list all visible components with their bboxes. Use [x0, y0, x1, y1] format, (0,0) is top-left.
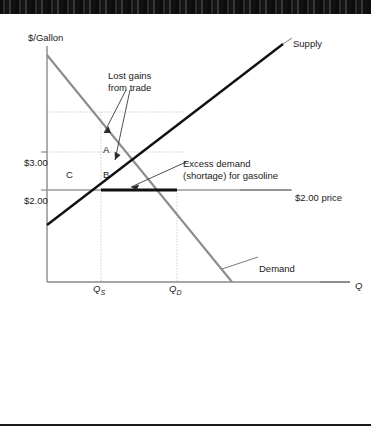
excess-demand-arrow [131, 162, 186, 190]
arrow-to-b-shaft [115, 90, 130, 160]
top-decoration-bar [0, 0, 371, 14]
figure-container: $/Gallon Supply Demand Q Lost gainsfrom … [0, 14, 371, 314]
lost-gains-line-1: Lost gains [108, 70, 151, 81]
guide-lines [47, 112, 185, 282]
qd-subscript: D [176, 289, 181, 296]
x-tick-label-qd: QD [169, 283, 181, 298]
bottom-divider [0, 424, 371, 426]
x-tick-label-qs: QS [93, 283, 105, 298]
x-axis-title: Q [355, 280, 362, 292]
excess-demand-line-2: (shortage) for gasoline [183, 170, 278, 181]
y-tick-label-200: $2.00 [24, 195, 48, 207]
lost-gains-line-2: from trade [108, 82, 151, 93]
excess-demand-annotation: Excess demand(shortage) for gasoline [183, 158, 283, 181]
price-callout-label: $2.00 price [295, 192, 342, 204]
demand-curve-label: Demand [259, 263, 295, 275]
area-label-b: B [103, 169, 109, 181]
area-label-c: C [66, 169, 73, 181]
y-tick-label-300: $3.00 [24, 157, 48, 169]
excess-arrow-shaft [131, 162, 186, 187]
qs-subscript: S [100, 289, 105, 296]
excess-demand-line-1: Excess demand [183, 158, 251, 169]
arrow-to-b-head [115, 152, 121, 160]
supply-curve-label: Supply [293, 38, 322, 50]
demand-leader-line [222, 257, 258, 269]
area-label-a: A [103, 144, 109, 156]
supply-leader-line [283, 38, 292, 44]
lost-gains-annotation: Lost gainsfrom trade [108, 70, 180, 93]
y-axis-title: $/Gallon [28, 32, 63, 44]
